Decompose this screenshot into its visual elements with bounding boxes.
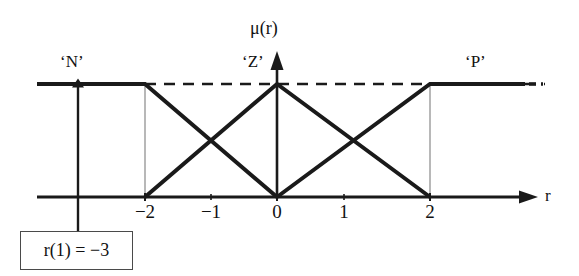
- membership-curve-negative: [37, 84, 277, 197]
- tick-label-minus1: −1: [196, 201, 226, 223]
- mu-axis-label: μ(r): [250, 18, 278, 39]
- membership-curve-positive: [277, 84, 525, 197]
- set-label-negative: ‘N’: [60, 52, 84, 72]
- membership-curve-zero: [145, 84, 430, 197]
- input-value-box: r(1) = −3: [20, 231, 133, 270]
- tick-label-minus2: −2: [130, 201, 160, 223]
- r-axis-arrowhead: [519, 191, 538, 204]
- tick-label-zero: 0: [262, 201, 292, 223]
- set-label-zero: ‘Z’: [242, 52, 264, 72]
- tick-label-plus1: 1: [329, 201, 359, 223]
- tick-label-plus2: 2: [415, 201, 445, 223]
- set-label-positive: ‘P’: [465, 52, 486, 72]
- mu-axis-arrowhead: [271, 51, 284, 70]
- r-axis-label: r: [545, 186, 551, 206]
